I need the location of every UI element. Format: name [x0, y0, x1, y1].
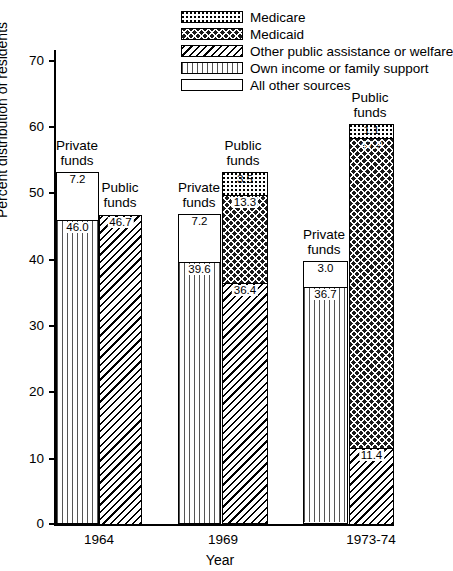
segment-value-1964-private-own-income: 46.0	[64, 222, 90, 233]
segment-value-1973-private-all-other: 3.0	[304, 263, 347, 274]
y-tick-60	[49, 126, 55, 128]
y-tick-40	[49, 259, 55, 261]
legend-item-medicare: Medicare	[181, 9, 453, 25]
y-tick-20	[49, 391, 55, 393]
segment-value-1969-public-medicare: 3.5	[223, 174, 267, 185]
caption-public-1969-line1: Public	[225, 138, 262, 153]
legend-item-medicaid: Medicaid	[181, 26, 453, 42]
y-tick-50	[49, 192, 55, 194]
legend-item-own-income: Own income or family support	[181, 60, 453, 76]
segment-1969-private-own-income: 39.6	[179, 263, 220, 524]
segment-1973-public-medicaid: 47.9	[350, 139, 393, 449]
bar-caption-private-1964: Private funds	[44, 138, 110, 168]
legend-label-medicare: Medicare	[250, 11, 306, 24]
caption-private-line1: Private	[56, 138, 98, 153]
y-tick-30	[49, 325, 55, 327]
legend-swatch-all-other-icon	[181, 79, 243, 91]
y-tick-0	[49, 523, 55, 525]
caption-public-1973-line2: funds	[353, 105, 386, 120]
legend-swatch-medicare-icon	[181, 11, 243, 23]
x-axis-line	[54, 524, 394, 526]
segment-1969-public-medicaid: 13.3	[223, 196, 267, 284]
caption-public-1969-line2: funds	[226, 153, 259, 168]
caption-private-1969-line1: Private	[178, 180, 220, 195]
y-axis-title: Percent distribution of residents	[0, 0, 10, 250]
caption-public-1973-line1: Public	[352, 90, 389, 105]
segment-value-1973-public-other-public: 11.4	[359, 450, 385, 461]
bar-1969-private: 7.2 39.6	[178, 214, 221, 524]
y-tick-label-60: 60	[14, 120, 44, 133]
legend-swatch-own-income-icon	[181, 62, 243, 74]
segment-1964-public-other-public: 46.7	[100, 216, 141, 524]
legend-label-other-public: Other public assistance or welfare	[250, 45, 453, 58]
segment-1964-private-own-income: 46.0	[57, 221, 98, 524]
legend-item-other-public: Other public assistance or welfare	[181, 43, 453, 59]
segment-value-1973-private-own-income: 36.7	[312, 289, 338, 300]
y-tick-label-0: 0	[14, 517, 44, 530]
segment-value-1969-private-all-other: 7.2	[179, 216, 220, 227]
segment-value-1964-public-other-public: 46.7	[107, 217, 133, 228]
caption-private-line2: funds	[60, 153, 93, 168]
segment-value-1973-public-medicaid: 47.9	[350, 140, 393, 151]
legend-swatch-other-public-icon	[181, 45, 243, 57]
y-tick-label-70: 70	[14, 54, 44, 67]
caption-private-1973-line2: funds	[307, 242, 340, 257]
segment-1973-private-all-other: 3.0	[304, 262, 347, 288]
legend-swatch-medicaid-icon	[181, 28, 243, 40]
x-tick-label-1964: 1964	[64, 532, 134, 547]
legend-label-medicaid: Medicaid	[250, 28, 304, 41]
x-tick-label-1973-74: 1973-74	[336, 532, 406, 547]
chart-legend: Medicare Medicaid Other public assistanc…	[181, 9, 453, 94]
bar-caption-public-1964: Public funds	[87, 180, 153, 210]
y-tick-label-10: 10	[14, 452, 44, 465]
legend-label-own-income: Own income or family support	[250, 62, 429, 75]
y-tick-label-20: 20	[14, 385, 44, 398]
y-tick-label-50: 50	[14, 186, 44, 199]
bar-1973-public: 1.1 47.9 11.4	[349, 124, 394, 524]
bar-caption-private-1973: Private funds	[291, 227, 357, 257]
caption-private-1973-line1: Private	[303, 227, 345, 242]
segment-1969-private-all-other: 7.2	[179, 215, 220, 263]
bar-1973-private: 3.0 36.7	[303, 261, 348, 524]
y-tick-label-30: 30	[14, 319, 44, 332]
caption-private-1969-line2: funds	[182, 195, 215, 210]
bar-1969-public: 3.5 13.3 36.4	[222, 172, 268, 524]
y-tick-label-40: 40	[14, 253, 44, 266]
segment-value-1973-public-medicare: 1.1	[350, 125, 393, 136]
segment-value-1969-private-own-income: 39.6	[186, 264, 212, 275]
segment-1969-public-medicare: 3.5	[223, 173, 267, 196]
bar-1964-private: 7.2 46.0	[56, 172, 99, 524]
y-tick-10	[49, 458, 55, 460]
bar-caption-public-1969: Public funds	[210, 138, 276, 168]
caption-public-line2: funds	[103, 195, 136, 210]
legend-item-all-other: All other sources	[181, 77, 453, 93]
x-axis-title: Year	[0, 552, 440, 568]
x-tick-label-1969: 1969	[188, 532, 258, 547]
legend-label-all-other: All other sources	[250, 79, 351, 92]
segment-1973-private-own-income: 36.7	[304, 288, 347, 522]
bar-1964-public: 46.7	[99, 215, 142, 524]
y-tick-70	[49, 60, 55, 62]
segment-value-1969-public-other-public: 36.4	[232, 285, 258, 296]
segment-1973-public-medicare: 1.1	[350, 125, 393, 139]
segment-value-1969-public-medicaid: 13.3	[232, 197, 258, 208]
segment-1969-public-other-public: 36.4	[223, 284, 267, 523]
bar-caption-public-1973: Public funds	[337, 90, 403, 120]
segment-1973-public-other-public: 11.4	[350, 449, 393, 524]
caption-public-line1: Public	[102, 180, 139, 195]
